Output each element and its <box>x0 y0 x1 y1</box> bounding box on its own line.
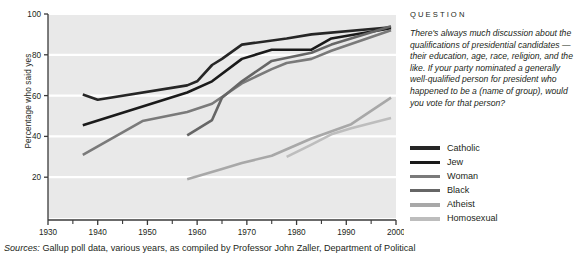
x-axis: 19301940195019601970198019902000 <box>39 220 404 236</box>
legend-label: Jew <box>447 158 463 167</box>
legend-label: Catholic <box>447 144 480 153</box>
legend-swatch-icon <box>410 217 440 220</box>
legend-swatch-icon <box>410 203 440 206</box>
y-tick-label: 20 <box>32 173 42 182</box>
legend-item-woman[interactable]: Woman <box>410 169 578 183</box>
plot-background <box>48 14 396 218</box>
y-tick-label: 60 <box>32 92 42 101</box>
x-tick-label: 1940 <box>89 228 108 236</box>
legend-item-homosexual[interactable]: Homosexual <box>410 212 578 226</box>
legend-item-jew[interactable]: Jew <box>410 155 578 169</box>
legend-swatch-icon <box>410 161 440 164</box>
legend-item-catholic[interactable]: Catholic <box>410 141 578 155</box>
legend-label: Atheist <box>447 200 475 209</box>
x-tick-label: 2000 <box>387 228 404 236</box>
legend-swatch-icon <box>410 146 440 149</box>
question-body-text: There's always much discussion about the… <box>410 28 575 109</box>
legend-swatch-icon <box>410 175 440 178</box>
line-chart-svg: 20406080100 1930194019501960197019801990… <box>0 0 404 236</box>
y-axis-title: Percentage who said yes <box>23 21 33 181</box>
question-heading: QUESTION <box>410 10 578 19</box>
x-tick-label: 1970 <box>238 228 257 236</box>
x-tick-label: 1950 <box>138 228 157 236</box>
x-tick-label: 1930 <box>39 228 58 236</box>
source-label: Sources: <box>4 243 40 253</box>
legend-label: Black <box>447 186 469 195</box>
legend-item-atheist[interactable]: Atheist <box>410 198 578 212</box>
x-tick-label: 1960 <box>188 228 207 236</box>
y-tick-label: 80 <box>32 51 42 60</box>
legend-swatch-icon <box>410 189 440 192</box>
figure-container: 20406080100 1930194019501960197019801990… <box>0 0 578 259</box>
y-tick-label: 40 <box>32 132 42 141</box>
y-tick-label: 100 <box>27 10 41 19</box>
source-text: Gallup poll data, various years, as comp… <box>40 243 416 253</box>
legend-label: Woman <box>447 172 478 181</box>
legend-item-black[interactable]: Black <box>410 184 578 198</box>
question-panel: QUESTION There's always much discussion … <box>410 10 578 109</box>
source-note: Sources: Gallup poll data, various years… <box>4 242 564 254</box>
chart-area: 20406080100 1930194019501960197019801990… <box>0 0 404 236</box>
x-tick-label: 1990 <box>337 228 356 236</box>
legend-label: Homosexual <box>447 214 498 223</box>
chart-legend: CatholicJewWomanBlackAtheistHomosexual <box>410 141 578 226</box>
x-tick-label: 1980 <box>287 228 306 236</box>
